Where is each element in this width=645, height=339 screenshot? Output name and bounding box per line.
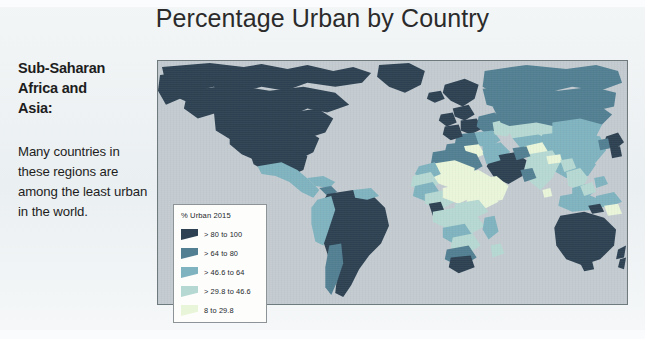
caption-heading-line-1: Sub-Saharan — [18, 58, 148, 78]
caption-heading-line-3: Asia: — [18, 98, 148, 118]
legend-label: > 64 to 80 — [204, 249, 238, 258]
legend-swatch-29-46 — [181, 286, 198, 297]
legend-label: > 80 to 100 — [204, 230, 242, 239]
legend-title: % Urban 2015 — [181, 211, 266, 220]
legend-item[interactable]: > 46.6 to 64 — [181, 263, 266, 282]
legend-swatch-80-100 — [181, 229, 198, 240]
page-title: Percentage Urban by Country — [0, 4, 645, 33]
slide-canvas: Percentage Urban by Country Sub-Saharan … — [0, 0, 645, 339]
caption-heading-line-2: Africa and — [18, 78, 148, 98]
page-bottom-edge — [0, 330, 645, 339]
caption-heading: Sub-Saharan Africa and Asia: — [18, 58, 148, 118]
legend-item[interactable]: > 64 to 80 — [181, 244, 266, 263]
legend-item[interactable]: > 29.8 to 46.6 — [181, 282, 266, 301]
caption-column: Sub-Saharan Africa and Asia: Many countr… — [18, 58, 148, 222]
caption-body: Many countries in these regions are amon… — [18, 142, 148, 222]
legend-label: > 46.6 to 64 — [204, 268, 244, 277]
legend-label: > 29.8 to 46.6 — [204, 287, 251, 296]
legend-label: 8 to 29.8 — [204, 306, 234, 315]
legend-swatch-8-29 — [181, 305, 198, 316]
map-legend[interactable]: % Urban 2015 > 80 to 100 > 64 to 80 > 46… — [173, 204, 267, 323]
legend-item[interactable]: > 80 to 100 — [181, 225, 266, 244]
legend-swatch-46-64 — [181, 267, 198, 278]
legend-item[interactable]: 8 to 29.8 — [181, 301, 266, 320]
legend-swatch-64-80 — [181, 248, 198, 259]
